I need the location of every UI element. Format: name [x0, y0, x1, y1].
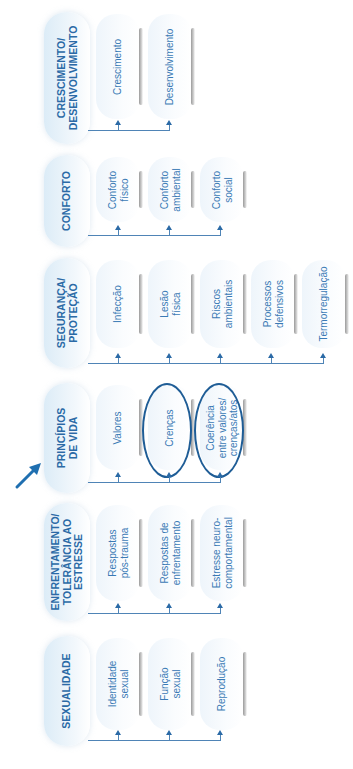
class-pill: Identidade sexual [96, 638, 140, 730]
arrow-up-icon [166, 353, 172, 358]
domain-title: PRINCÍPIOS DE VIDA [56, 408, 79, 469]
domain-header: ENFRENTAMENTO/ TOLERÂNCIA AO ESTRESSE [44, 503, 90, 621]
connector-line [88, 235, 221, 236]
connector-line [88, 613, 221, 614]
domain-principios: PRINCÍPIOS DE VIDA Valores Crenças Coerê… [0, 383, 353, 495]
class-pill: Conforto físico [96, 157, 140, 222]
domain-crescimento: CRESCIMENTO/ DESENVOLVIMENTO Crescimento… [0, 12, 353, 147]
arrow-up-icon [217, 603, 223, 608]
arrow-up-icon [115, 730, 121, 735]
domain-title: SEXUALIDADE [61, 653, 73, 728]
class-pill: Processos defensivos [251, 260, 295, 348]
class-pill: Reprodução [200, 638, 244, 730]
highlight-ellipse [142, 383, 192, 478]
class-pill: Função sexual [148, 638, 192, 730]
arrow-up-icon [115, 225, 121, 230]
arrow-up-icon [115, 120, 121, 125]
domain-title: SEGURANÇA/ PROTEÇÃO [56, 278, 79, 349]
domain-sexualidade: SEXUALIDADE Identidade sexual Função sex… [0, 636, 353, 748]
domain-header: SEGURANÇA/ PROTEÇÃO [44, 258, 90, 368]
highlight-ellipse [194, 383, 244, 478]
class-pill: Conforto ambiental [148, 157, 192, 222]
class-pill: Estresse neuro- comportamental [200, 505, 244, 601]
domain-enfrentamento: ENFRENTAMENTO/ TOLERÂNCIA AO ESTRESSE Re… [0, 503, 353, 623]
domain-header: CRESCIMENTO/ DESENVOLVIMENTO [44, 12, 90, 144]
domain-seguranca: SEGURANÇA/ PROTEÇÃO Infecção Lesão físic… [0, 258, 353, 370]
arrow-up-icon [320, 353, 326, 358]
arrow-up-icon [217, 225, 223, 230]
class-pill: Conforto social [200, 157, 244, 222]
connector-line [88, 740, 221, 741]
arrow-up-icon [166, 120, 172, 125]
connector-line [88, 130, 170, 131]
class-pill: Lesão física [148, 260, 192, 348]
arrow-up-icon [115, 603, 121, 608]
class-pill: Riscos ambientais [200, 260, 244, 348]
arrow-up-icon [217, 353, 223, 358]
domain-title: CONFORTO [61, 171, 73, 231]
class-pill: Respostas de enfrentamento [148, 505, 192, 601]
arrow-up-icon [217, 730, 223, 735]
class-pill: Termorregulação [302, 260, 346, 348]
domain-title: CRESCIMENTO/ DESENVOLVIMENTO [56, 26, 79, 131]
arrow-up-icon [268, 353, 274, 358]
class-pill: Valores [96, 385, 140, 470]
connector-line [88, 363, 324, 364]
arrow-up-icon [166, 472, 172, 477]
class-pill: Respostas pós-trauma [96, 505, 140, 601]
arrow-up-icon [166, 225, 172, 230]
class-pill: Crescimento [96, 14, 140, 119]
arrow-up-icon [115, 353, 121, 358]
domain-header: SEXUALIDADE [44, 636, 90, 746]
domain-header: PRINCÍPIOS DE VIDA [44, 383, 90, 493]
domain-conforto: CONFORTO Conforto físico Conforto ambien… [0, 155, 353, 250]
arrow-up-icon [166, 730, 172, 735]
class-pill: Desenvolvimento [148, 14, 192, 119]
arrow-up-icon [166, 603, 172, 608]
arrow-up-icon [217, 472, 223, 477]
connector-line [88, 482, 221, 483]
class-pill: Infecção [96, 260, 140, 348]
domain-header: CONFORTO [44, 155, 90, 247]
domain-title: ENFRENTAMENTO/ TOLERÂNCIA AO ESTRESSE [50, 513, 85, 610]
arrow-up-icon [115, 472, 121, 477]
